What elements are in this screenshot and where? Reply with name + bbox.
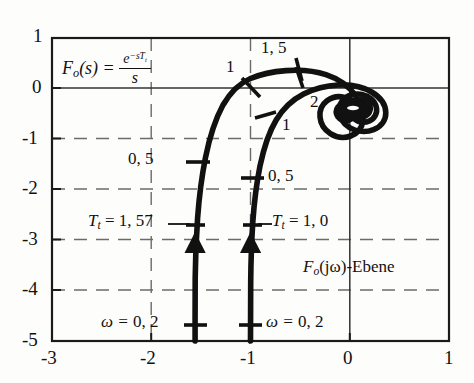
y-tick-m5: -5 [22, 330, 38, 349]
label-omega-1-left: 1 [226, 58, 235, 75]
label-deadtime-157: Tt = 1, 57 [88, 212, 153, 232]
formula-F: F [62, 58, 73, 78]
y-tick-m4: -4 [22, 279, 38, 298]
deadtime-sub-right: t [281, 219, 284, 232]
arrow-tt157 [185, 232, 206, 253]
x-tick-p1: 1 [444, 348, 454, 367]
formula-fraction: e−sTt s [119, 51, 150, 87]
y-tick-m3: -3 [22, 229, 38, 248]
label-omega-1-right: 1 [282, 116, 291, 133]
arrow-tt10 [240, 232, 261, 253]
omega-val-left: 0, 2 [133, 312, 159, 331]
label-omega-2: 2 [310, 93, 319, 110]
label-omega-05-right: 0, 5 [268, 167, 294, 184]
y-tick-m2: -2 [22, 178, 38, 197]
plane-F: F [303, 257, 313, 276]
plane-rest: (jω)-Ebene [319, 257, 394, 276]
num-exponent-sub: t [145, 56, 147, 63]
label-deadtime-10: Tt = 1, 0 [272, 212, 328, 232]
num-exponent: −sT [129, 51, 144, 61]
deadtime-sub-left: t [97, 219, 100, 232]
label-omega-15: 1, 5 [261, 39, 287, 56]
spiral-core-highlight [347, 106, 359, 110]
x-tick-m2: -2 [140, 348, 156, 367]
omega-eq-left: ω = [101, 312, 129, 331]
y-tick-m1: -1 [22, 128, 38, 147]
deadtime-value-left: = 1, 57 [105, 211, 153, 230]
label-omega-05-left: 0, 5 [128, 150, 154, 167]
label-omega-start-left: ω = 0, 2 [101, 313, 158, 330]
omega-val-right: 0, 2 [298, 312, 324, 331]
plane-label: Fo(jω)-Ebene [303, 258, 395, 278]
formula-numerator: e−sTt [119, 51, 150, 68]
x-tick-m3: -3 [41, 348, 57, 367]
transfer-function-formula: Fo(s) = e−sTt s [62, 52, 151, 88]
y-tick-0: 0 [32, 77, 42, 96]
label-omega-start-right: ω = 0, 2 [266, 313, 323, 330]
nyquist-figure: 1 0 -1 -2 -3 -4 -5 -3 -2 -1 0 1 Fo(s) = … [0, 0, 474, 383]
y-tick-1: 1 [33, 26, 43, 45]
formula-denominator: s [119, 68, 150, 87]
formula-arg: (s) = [79, 58, 115, 78]
x-tick-0: 0 [343, 348, 353, 367]
omega-eq-right: ω = [266, 312, 294, 331]
deadtime-value-right: = 1, 0 [289, 211, 328, 230]
x-tick-m1: -1 [240, 348, 256, 367]
